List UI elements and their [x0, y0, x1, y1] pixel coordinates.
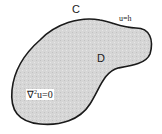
domain-label: D — [97, 53, 105, 64]
boundary-label: C — [72, 4, 80, 15]
domain-figure — [0, 0, 162, 134]
domain-region — [12, 19, 152, 124]
laplace-equation-label: ∇2u=0 — [26, 89, 54, 100]
equation-rest: u=0 — [37, 89, 53, 100]
boundary-condition-label: u=h — [119, 15, 132, 23]
nabla-symbol: ∇ — [27, 89, 34, 100]
